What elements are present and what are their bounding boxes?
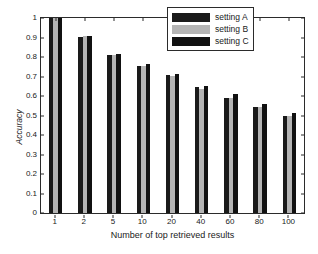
legend-item: setting A [172,11,249,23]
bar-chart-figure: Accuracy 00.10.20.30.40.50.60.70.80.91 1… [0,0,318,254]
y-axis-tick-mark [41,213,44,214]
x-axis-tick-mark [142,215,143,218]
x-axis-tick-label: 1 [52,218,56,226]
x-axis-tick-mark [83,215,84,218]
bar [204,86,208,213]
legend-swatch [172,25,210,34]
y-axis-tick-mark [41,57,44,58]
y-axis-tick-label: 0.5 [26,112,37,120]
y-axis-tick-mark [301,37,304,38]
bar [146,64,150,213]
x-axis: 1251020406080100 [40,215,305,229]
y-axis-tick-label: 0.7 [26,73,37,81]
y-axis-tick-mark [301,18,304,19]
y-axis-tick-label: 0.1 [26,190,37,198]
y-axis-tick-mark [41,174,44,175]
y-axis-tick-mark [301,154,304,155]
y-axis-tick-label: 0.3 [26,151,37,159]
y-axis-tick-label: 0.9 [26,34,37,42]
legend-item: setting B [172,23,249,35]
y-axis-tick-mark [41,96,44,97]
x-axis-tick-mark-top [260,18,261,21]
x-axis-tick-label: 80 [255,218,264,226]
bar [58,18,62,213]
legend-swatch [172,13,210,22]
y-axis-tick-mark [301,213,304,214]
x-axis-tick-mark [113,215,114,218]
y-axis-tick-label: 0 [33,209,37,217]
y-axis-tick-label: 0.8 [26,53,37,61]
y-axis-tick-mark [41,37,44,38]
y-axis-tick-mark [41,18,44,19]
y-axis-label: Accuracy [14,110,24,145]
x-axis-tick-mark [171,215,172,218]
x-axis-tick-label: 60 [225,218,234,226]
x-axis-tick-label: 100 [282,218,295,226]
x-axis-tick-label: 20 [167,218,176,226]
x-axis-tick-label: 2 [82,218,86,226]
y-axis-tick-label: 0.4 [26,131,37,139]
legend-label: setting C [215,37,249,46]
x-axis-tick-mark-top [55,18,56,21]
legend-label: setting A [215,13,248,22]
x-axis-tick-mark-top [143,18,144,21]
bar [292,113,296,213]
y-axis-tick-mark [41,76,44,77]
x-axis-tick-mark [229,215,230,218]
y-axis-tick-mark [301,115,304,116]
legend-label: setting B [215,25,248,34]
legend-item: setting C [172,35,249,47]
chart-legend: setting Asetting Bsetting C [167,7,254,51]
bar [87,36,91,213]
x-axis-tick-mark-top [84,18,85,21]
bar [233,94,237,213]
legend-swatch [172,37,210,46]
y-axis-tick-label: 0.6 [26,92,37,100]
x-axis-tick-label: 10 [138,218,147,226]
x-axis-tick-mark-top [289,18,290,21]
y-axis-tick-mark [41,154,44,155]
x-axis-tick-mark [54,215,55,218]
x-axis-tick-mark [259,215,260,218]
y-axis-tick-mark [301,135,304,136]
y-axis-tick-mark [301,174,304,175]
y-axis-tick-mark [41,115,44,116]
x-axis-tick-mark-top [114,18,115,21]
x-axis-label: Number of top retrieved results [40,230,305,240]
y-axis-tick-mark [41,193,44,194]
y-axis-tick-label: 0.2 [26,170,37,178]
y-axis-tick-mark [301,193,304,194]
y-axis-tick-mark [301,57,304,58]
y-axis-tick-mark [301,96,304,97]
x-axis-tick-mark [288,215,289,218]
y-axis-tick-label: 1 [33,14,37,22]
bar [175,74,179,213]
x-axis-tick-mark [200,215,201,218]
bar [116,54,120,213]
x-axis-tick-label: 5 [111,218,115,226]
y-axis-tick-mark [41,135,44,136]
y-axis-tick-mark [301,76,304,77]
bar [262,104,266,213]
x-axis-tick-label: 40 [196,218,205,226]
